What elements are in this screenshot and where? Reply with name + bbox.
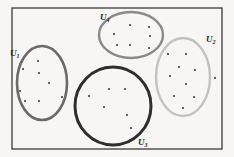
data-point [103, 106, 105, 108]
data-point [113, 33, 115, 35]
data-point [169, 75, 171, 77]
data-point [178, 66, 180, 68]
data-point [129, 24, 131, 26]
data-point [116, 44, 118, 46]
data-point [194, 69, 196, 71]
data-point [126, 114, 128, 116]
cluster-boundary [17, 46, 67, 120]
cluster-boundary [156, 38, 210, 116]
data-point [88, 95, 90, 97]
cluster-u2: U2 [156, 34, 216, 116]
universe-frame [12, 8, 222, 149]
data-point [108, 88, 110, 90]
cluster-u4: U4 [99, 12, 163, 58]
clusters-group: U1U4U2U3 [10, 12, 216, 148]
data-point [124, 88, 126, 90]
data-point [37, 60, 39, 62]
cluster-diagram: U1U4U2U3 [0, 0, 234, 157]
cluster-u3: U3 [75, 67, 151, 148]
data-point [193, 96, 195, 98]
data-point [38, 72, 40, 74]
cluster-label: U4 [100, 12, 110, 23]
cluster-label: U3 [138, 137, 148, 148]
cluster-boundary [75, 67, 151, 145]
data-point [38, 100, 40, 102]
data-point [148, 26, 150, 28]
cluster-label: U1 [10, 48, 20, 59]
data-point [149, 35, 151, 37]
data-point [185, 83, 187, 85]
data-point [129, 44, 131, 46]
data-point [22, 68, 24, 70]
data-point [173, 95, 175, 97]
cluster-label: U2 [206, 34, 216, 45]
data-point [214, 77, 216, 79]
data-point [48, 82, 50, 84]
data-point [61, 96, 63, 98]
data-point [148, 47, 150, 49]
data-point [130, 127, 132, 129]
cluster-u1: U1 [10, 46, 67, 120]
data-point [182, 107, 184, 109]
data-point [19, 90, 21, 92]
data-point [185, 53, 187, 55]
data-point [167, 53, 169, 55]
data-point [24, 100, 26, 102]
